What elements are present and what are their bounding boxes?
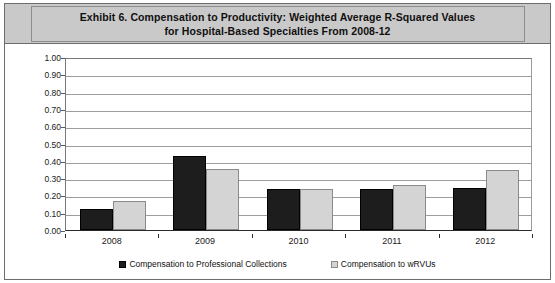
y-axis-tick-label: 0.80	[19, 89, 61, 98]
y-axis-tick-label: 0.90	[19, 71, 61, 80]
exhibit-title-plate: Exhibit 6. Compensation to Productivity:…	[31, 6, 525, 42]
bar	[206, 169, 239, 230]
gridline	[66, 163, 531, 164]
y-axis-tick-label: 0.70	[19, 106, 61, 115]
y-axis-tick-label: 0.60	[19, 123, 61, 132]
exhibit-title-line-2: for Hospital-Based Specialties From 2008…	[164, 24, 390, 38]
gridline	[66, 180, 531, 181]
y-axis-tick-label: 0.00	[19, 227, 61, 236]
exhibit-figure: Exhibit 6. Compensation to Productivity:…	[0, 0, 555, 283]
gridline	[66, 111, 531, 112]
x-axis-tick-mark	[65, 234, 66, 238]
legend-entry[interactable]: Compensation to wRVUs	[331, 259, 436, 269]
x-axis-labels: 20082009201020112012	[65, 234, 532, 250]
bar	[486, 170, 519, 230]
legend-label: Compensation to wRVUs	[341, 259, 436, 269]
legend-entry[interactable]: Compensation to Professional Collections	[119, 259, 286, 269]
y-axis-tick-label: 0.10	[19, 210, 61, 219]
x-axis-tick-label: 2012	[439, 236, 532, 247]
y-axis-tick-label: 0.40	[19, 158, 61, 167]
legend-label: Compensation to Professional Collections	[129, 259, 286, 269]
chart-body: 1.000.900.800.700.600.500.400.300.200.10…	[5, 45, 550, 279]
gridline	[66, 128, 531, 129]
y-axis-tick-mark	[61, 231, 65, 232]
bar	[393, 185, 426, 230]
y-axis-tick-label: 0.50	[19, 141, 61, 150]
y-axis-tick-label: 0.30	[19, 175, 61, 184]
legend-swatch-icon	[119, 261, 126, 268]
x-axis-tick-label: 2008	[65, 236, 158, 247]
gridline	[66, 76, 531, 77]
chart-legend: Compensation to Professional Collections…	[5, 255, 550, 273]
bar	[360, 189, 393, 230]
bar	[173, 156, 206, 230]
bar	[267, 189, 300, 230]
bar	[113, 201, 146, 230]
plot-area	[65, 58, 532, 231]
y-axis-tick-label: 0.20	[19, 192, 61, 201]
gridline	[66, 94, 531, 95]
x-axis-tick-mark	[532, 234, 533, 238]
legend-swatch-icon	[331, 261, 338, 268]
exhibit-title-line-1: Exhibit 6. Compensation to Productivity:…	[80, 10, 476, 24]
x-axis-tick-label: 2010	[252, 236, 345, 247]
bar	[453, 188, 486, 230]
bar	[300, 189, 333, 230]
y-axis-tick-labels: 1.000.900.800.700.600.500.400.300.200.10…	[13, 58, 61, 231]
x-axis-tick-label: 2009	[158, 236, 251, 247]
gridline	[66, 146, 531, 147]
bar	[80, 209, 113, 230]
exhibit-title-banner: Exhibit 6. Compensation to Productivity:…	[5, 4, 550, 44]
x-axis-tick-label: 2011	[345, 236, 438, 247]
y-axis-tick-label: 1.00	[19, 54, 61, 63]
